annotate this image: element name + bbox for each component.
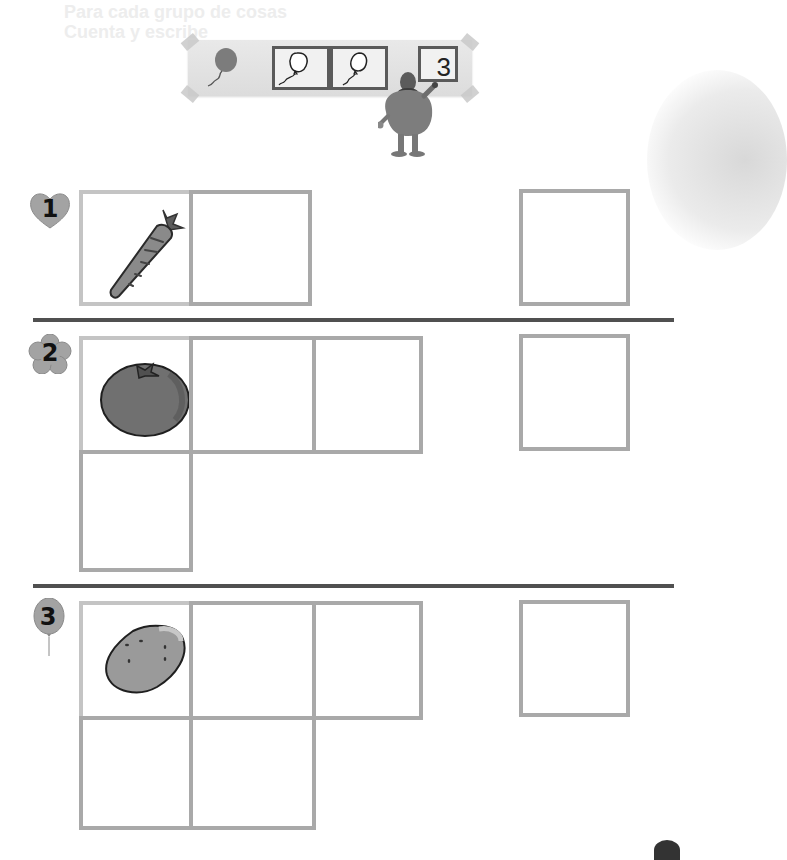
answer-box[interactable]: [519, 334, 630, 451]
count-cell[interactable]: [312, 601, 423, 720]
balloon-outline-icon: [333, 49, 379, 87]
section-number: 3: [25, 598, 71, 636]
count-cell: [79, 336, 193, 454]
bleed-through-shape: [647, 70, 787, 250]
bleed-through-text: Para cada grupo de cosas Cuenta y escrib…: [64, 2, 287, 42]
count-cell[interactable]: [189, 601, 316, 720]
balloon-outline-icon: [275, 49, 321, 87]
example-box-1: [272, 46, 330, 90]
count-cell[interactable]: [79, 450, 193, 572]
count-cell[interactable]: [189, 336, 316, 454]
carrot-icon: [105, 204, 189, 300]
tomato-icon: [97, 356, 193, 440]
answer-box[interactable]: [519, 189, 630, 306]
tape-icon: [461, 33, 480, 51]
potato-icon: [103, 621, 189, 701]
section-number: 2: [27, 334, 73, 372]
fuzzy-monster-icon: [378, 72, 458, 158]
answer-box[interactable]: [519, 600, 630, 717]
count-cell[interactable]: [189, 190, 312, 306]
page-corner-mark: [654, 840, 680, 860]
balloon-badge: 3: [27, 598, 73, 658]
section-divider: [33, 318, 674, 322]
tape-icon: [181, 85, 200, 103]
count-cell[interactable]: [189, 716, 316, 830]
count-cell: [79, 190, 193, 306]
section-number: 1: [27, 190, 73, 228]
tape-icon: [461, 85, 480, 103]
count-cell[interactable]: [312, 336, 423, 454]
flower-badge: 2: [27, 334, 73, 378]
count-cell: [79, 601, 193, 720]
balloon-icon: [198, 44, 242, 88]
count-cell[interactable]: [79, 716, 193, 830]
heart-badge: 1: [27, 190, 73, 234]
section-divider: [33, 584, 674, 588]
